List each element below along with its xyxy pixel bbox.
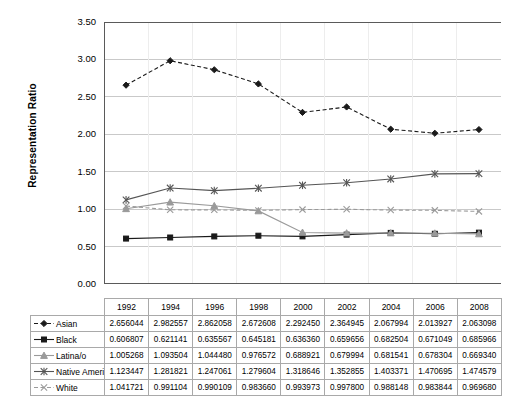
table-cell: 0.659656 <box>325 332 369 348</box>
table-col-header-1994: 1994 <box>149 299 193 316</box>
table-cell: 1.044480 <box>193 348 237 364</box>
legend-label: White <box>56 383 78 393</box>
table-col-header-1998: 1998 <box>237 299 281 316</box>
marker-diamond <box>255 81 261 87</box>
table-cell: 0.969680 <box>457 380 501 396</box>
table-cell: 0.645181 <box>237 332 281 348</box>
marker-square <box>212 234 217 239</box>
legend-label: Latina/o <box>56 351 86 361</box>
marker-diamond <box>344 104 350 110</box>
marker-diamond <box>123 82 129 88</box>
table-cell: 0.990109 <box>193 380 237 396</box>
table-col-header-1992: 1992 <box>105 299 149 316</box>
y-tick-0-00: 0.00 <box>52 279 96 289</box>
legend-row-asian: Asian <box>31 316 105 332</box>
chart-data-table: 199219941996199820002002200420062008 Asi… <box>30 298 502 396</box>
legend-swatch-asterisk <box>34 366 54 377</box>
table-cell: 2.862058 <box>193 316 237 332</box>
table-row: Asian2.6560442.9825572.8620582.6726082.2… <box>31 316 502 332</box>
table-header-row: 199219941996199820002002200420062008 <box>31 299 502 316</box>
marker-diamond <box>388 126 394 132</box>
table-cell: 2.364945 <box>325 316 369 332</box>
table-cell: 1.041721 <box>105 380 149 396</box>
table-col-header-1996: 1996 <box>193 299 237 316</box>
table-row: Native American1.1234471.2818211.2470611… <box>31 364 502 380</box>
marker-square <box>168 235 173 240</box>
table-cell: 1.403371 <box>369 364 413 380</box>
legend-label: Asian <box>56 319 77 329</box>
table-cell: 0.688921 <box>281 348 325 364</box>
table-cell: 0.682504 <box>369 332 413 348</box>
y-tick-1-00: 1.00 <box>52 204 96 214</box>
marker-diamond <box>211 67 217 73</box>
table-cell: 0.681541 <box>369 348 413 364</box>
marker-asterisk <box>123 196 130 204</box>
chart-figure: Representation Ratio 0.000.501.001.502.0… <box>0 0 529 398</box>
y-tick-2-00: 2.00 <box>52 129 96 139</box>
table-cell: 0.606807 <box>105 332 149 348</box>
table-col-header-2002: 2002 <box>325 299 369 316</box>
legend-swatch-triangle <box>34 350 54 361</box>
legend-row-latina-o: Latina/o <box>31 348 105 364</box>
marker-diamond <box>476 126 482 132</box>
legend-label: Black <box>56 335 77 345</box>
table-cell: 0.991104 <box>149 380 193 396</box>
table-cell: 1.318646 <box>281 364 325 380</box>
table-cell: 1.281821 <box>149 364 193 380</box>
table-cell: 0.976572 <box>237 348 281 364</box>
table-cell: 2.013927 <box>413 316 457 332</box>
table-cell: 0.636360 <box>281 332 325 348</box>
table-row: Black0.6068070.6211410.6355670.6451810.6… <box>31 332 502 348</box>
legend-swatch-diamond <box>34 318 54 329</box>
table-body: Asian2.6560442.9825572.8620582.6726082.2… <box>31 316 502 396</box>
table-cell: 2.292450 <box>281 316 325 332</box>
table-col-header-2000: 2000 <box>281 299 325 316</box>
table-row: Latina/o1.0052681.0935041.0444800.976572… <box>31 348 502 364</box>
legend-row-native-american: Native American <box>31 364 105 380</box>
marker-diamond <box>299 109 305 115</box>
y-axis-title: Representation Ratio <box>27 56 38 216</box>
series-latina-o <box>123 199 483 237</box>
marker-diamond <box>41 321 47 327</box>
table-cell: 0.997800 <box>325 380 369 396</box>
table-cell: 2.982557 <box>149 316 193 332</box>
legend-row-black: Black <box>31 332 105 348</box>
plot-area <box>104 22 501 284</box>
table-cell: 0.993973 <box>281 380 325 396</box>
table-cell: 1.123447 <box>105 364 149 380</box>
table-cell: 0.983660 <box>237 380 281 396</box>
table-cell: 0.635567 <box>193 332 237 348</box>
table-cell: 0.678304 <box>413 348 457 364</box>
y-tick-3-50: 3.50 <box>52 17 96 27</box>
table-cell: 2.656044 <box>105 316 149 332</box>
table-col-header-2008: 2008 <box>457 299 501 316</box>
marker-square <box>124 236 129 241</box>
marker-square <box>256 233 261 238</box>
legend-swatch-square <box>34 334 54 345</box>
table-cell: 1.279604 <box>237 364 281 380</box>
table-cell: 0.621141 <box>149 332 193 348</box>
legend-label: Native American <box>56 367 105 377</box>
table-cell: 0.983844 <box>413 380 457 396</box>
table-cell: 0.679994 <box>325 348 369 364</box>
table-cell: 0.669340 <box>457 348 501 364</box>
table-cell: 0.671049 <box>413 332 457 348</box>
table-cell: 1.247061 <box>193 364 237 380</box>
table-cell: 1.005268 <box>105 348 149 364</box>
legend-row-white: White <box>31 380 105 396</box>
table-cell: 1.093504 <box>149 348 193 364</box>
table-cell: 2.063098 <box>457 316 501 332</box>
marker-diamond <box>167 58 173 64</box>
table-cell: 1.470695 <box>413 364 457 380</box>
marker-square <box>42 337 47 342</box>
y-tick-0-50: 0.50 <box>52 242 96 252</box>
table-cell: 0.988148 <box>369 380 413 396</box>
table-cell: 2.672608 <box>237 316 281 332</box>
y-tick-2-50: 2.50 <box>52 92 96 102</box>
table-corner-cell <box>31 299 105 316</box>
table-cell: 2.067994 <box>369 316 413 332</box>
table-cell: 0.685966 <box>457 332 501 348</box>
table-col-header-2004: 2004 <box>369 299 413 316</box>
y-tick-1-50: 1.50 <box>52 167 96 177</box>
marker-diamond <box>432 130 438 136</box>
